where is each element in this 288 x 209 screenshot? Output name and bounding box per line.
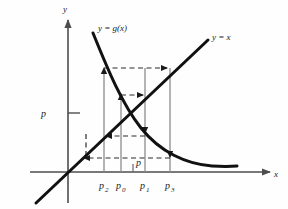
x-tick-p2-sub: 2: [105, 186, 109, 194]
y-tick-group: p: [40, 108, 80, 119]
identity-line: [36, 40, 208, 203]
x-tick-p1: p 1: [139, 180, 150, 194]
figure-canvas: x y y = x: [0, 0, 288, 209]
cobweb-figure: x y y = x: [0, 0, 288, 209]
fixed-point-label: p: [135, 157, 141, 168]
identity-line-label: y = x: [211, 32, 231, 42]
g-curve: [93, 33, 237, 166]
x-tick-p3: p 3: [164, 180, 175, 194]
x-tick-p3-sub: 3: [170, 186, 175, 194]
x-tick-p1-base: p: [139, 180, 145, 191]
x-tick-p0-base: p: [115, 180, 121, 191]
y-tick-label: p: [40, 108, 46, 119]
x-tick-p1-sub: 1: [146, 186, 150, 194]
x-tick-p2-base: p: [98, 180, 104, 191]
x-tick-labels: p 2 p 0 p 1 p 3: [98, 180, 175, 194]
y-axis-label: y: [62, 4, 67, 14]
x-tick-p0-sub: 0: [122, 186, 126, 194]
x-axis-label: x: [273, 169, 278, 179]
x-tick-p2: p 2: [98, 180, 109, 194]
x-tick-p3-base: p: [164, 180, 170, 191]
g-curve-group: y = g(x): [93, 23, 237, 166]
x-tick-p0: p 0: [115, 180, 126, 194]
g-curve-label: y = g(x): [97, 23, 127, 33]
